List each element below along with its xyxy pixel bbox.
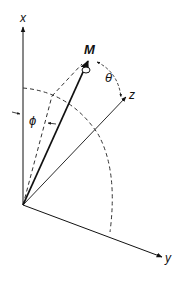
phi-label: ϕ	[29, 113, 36, 128]
z-axis	[23, 97, 126, 205]
m-vector	[23, 61, 88, 205]
magnetization-diagram: x y z M θ ϕ	[0, 0, 186, 282]
projection-line-upper	[52, 64, 82, 96]
theta-label: θ	[105, 70, 112, 85]
phi-arrow-left	[12, 112, 20, 114]
z-axis-label: z	[128, 88, 135, 102]
precession-circle	[82, 67, 90, 73]
phi-arrow-right	[48, 123, 56, 124]
y-axis	[23, 205, 162, 257]
y-axis-label: y	[164, 251, 172, 265]
x-axis-label: x	[19, 11, 27, 25]
m-vector-label: M	[84, 42, 96, 57]
